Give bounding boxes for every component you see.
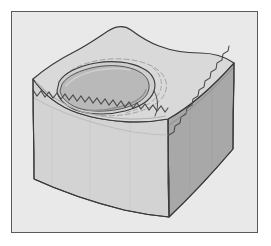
figure-frame: Block diagram of a rectangular earth blo… <box>11 11 258 233</box>
block-diagram-illustration <box>12 12 257 232</box>
figure-page: Block diagram of a rectangular earth blo… <box>0 0 271 246</box>
